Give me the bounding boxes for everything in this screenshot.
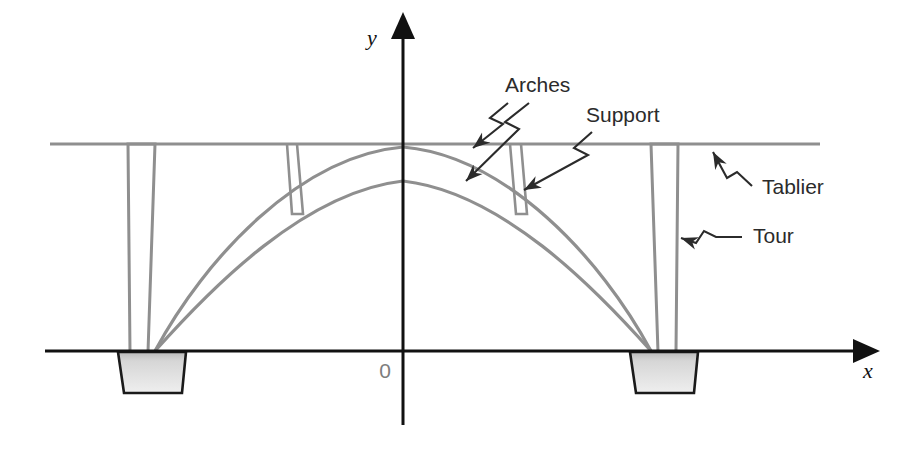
bridge-structure-group bbox=[50, 144, 820, 352]
left-tower-tour bbox=[128, 144, 155, 352]
tour-leader bbox=[681, 231, 742, 243]
callout-label-support: Support bbox=[586, 103, 660, 126]
origin-label: 0 bbox=[379, 359, 391, 382]
bridge-diagram: y x 0 Arches Support Tablier Tour bbox=[0, 0, 902, 457]
right-support bbox=[510, 144, 527, 214]
callout-label-tablier: Tablier bbox=[762, 175, 824, 198]
right-tower-tour bbox=[651, 144, 678, 352]
y-axis-label: y bbox=[365, 25, 377, 50]
right-foundation bbox=[630, 352, 698, 393]
left-foundation bbox=[118, 352, 186, 393]
callout-label-arches: Arches bbox=[505, 73, 570, 96]
x-axis-label: x bbox=[862, 358, 873, 383]
support-leader bbox=[524, 132, 592, 190]
bridge-schematic-svg: y x 0 Arches Support Tablier Tour bbox=[0, 0, 902, 457]
foundations-group bbox=[118, 352, 698, 393]
arches-leader-upper bbox=[473, 103, 508, 148]
left-support bbox=[287, 144, 303, 214]
callout-label-tour: Tour bbox=[753, 224, 794, 247]
tablier-leader bbox=[713, 152, 752, 186]
